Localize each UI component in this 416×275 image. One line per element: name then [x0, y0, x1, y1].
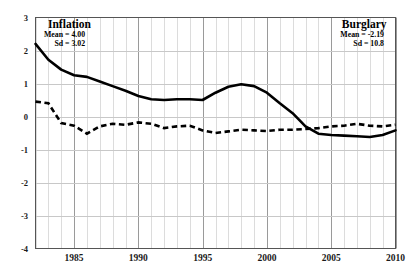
annotation-inflation: Inflation Mean = 4.00 Sd = 3.02	[44, 18, 95, 48]
y-tick-label: 2	[10, 46, 28, 56]
x-tick-label: 1985	[54, 253, 94, 263]
x-tick-label: 1995	[183, 253, 223, 263]
y-tick-label: 0	[10, 112, 28, 122]
major-gridlines	[75, 18, 397, 249]
y-tick-label: 1	[10, 79, 28, 89]
annotation-burglary: Burglary Mean = -2.19 Sd = 10.8	[340, 18, 388, 48]
annotation-burglary-mean: Mean = -2.19	[340, 30, 388, 39]
y-tick-label: -3	[10, 211, 28, 221]
x-tick-label: 2000	[247, 253, 287, 263]
x-tick-label: 2010	[376, 253, 416, 263]
annotation-burglary-title: Burglary	[340, 18, 388, 30]
horizontal-gridlines	[36, 52, 396, 217]
x-tick-label: 2005	[311, 253, 351, 263]
y-tick-label: -2	[10, 178, 28, 188]
annotation-inflation-title: Inflation	[44, 18, 95, 30]
x-tick-label: 1990	[118, 253, 158, 263]
annotation-inflation-sd: Sd = 3.02	[44, 39, 95, 48]
y-tick-label: 3	[10, 13, 28, 23]
series-line-inflation	[36, 44, 396, 137]
annotation-inflation-mean: Mean = 4.00	[44, 30, 95, 39]
chart-container: 3210-1-2-3-4 198519901995200020052010 In…	[0, 0, 416, 275]
annotation-burglary-sd: Sd = 10.8	[340, 39, 388, 48]
y-tick-label: -1	[10, 145, 28, 155]
y-tick-label: -4	[10, 244, 28, 254]
